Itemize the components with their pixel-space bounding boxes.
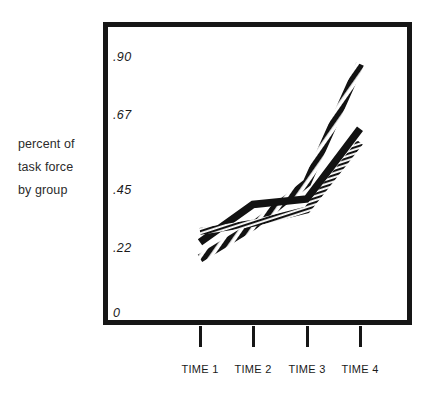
y-axis-caption-line-3: by group [18,179,104,202]
series-canvas [103,22,412,325]
chart-figure: percent of task force by group .90.67 [0,0,443,415]
y-tick-label: .90 [113,50,132,64]
y-axis-caption-line-2: task force [18,156,104,179]
y-axis-caption: percent of task force by group [18,133,104,202]
x-axis-tick [252,326,255,347]
y-tick-label: .67 [113,108,132,122]
x-tick-label: TIME 4 [341,363,378,375]
x-axis-tick [199,326,202,347]
x-axis-tick [359,326,362,347]
y-axis-caption-line-1: percent of [18,133,104,156]
x-axis-tick [306,326,309,347]
y-tick-label: .22 [113,241,132,255]
plot-area [103,22,412,325]
x-tick-label: TIME 1 [181,363,218,375]
x-tick-label: TIME 2 [234,363,271,375]
y-tick-label: .45 [113,183,132,197]
y-tick-label: 0 [113,306,120,320]
x-tick-label: TIME 3 [288,363,325,375]
